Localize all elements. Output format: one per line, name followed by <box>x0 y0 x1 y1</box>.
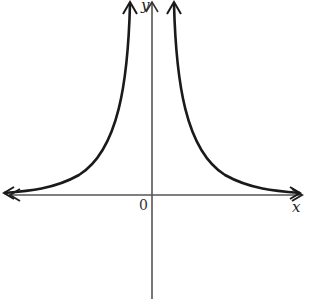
curve-right-branch <box>174 4 300 193</box>
y-axis <box>146 2 158 299</box>
origin-label: 0 <box>139 197 148 213</box>
x-axis-label: x <box>292 198 300 216</box>
y-axis-label: y <box>141 0 149 14</box>
x-axis <box>10 189 302 201</box>
graph-canvas <box>0 0 310 299</box>
curve-left-branch <box>4 4 130 193</box>
